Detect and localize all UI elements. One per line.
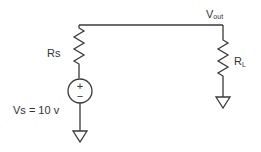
load-resistor-label: RL	[234, 55, 246, 68]
load-resistor-symbol	[218, 25, 228, 97]
ground-icon-right	[216, 97, 230, 108]
circuit-diagram: Rs + − Vs = 10 v RL Vout	[0, 0, 261, 152]
vout-label: Vout	[206, 8, 223, 20]
ground-icon-left	[73, 131, 87, 142]
minus-sign: −	[77, 90, 83, 102]
voltage-source-label: Vs = 10 v	[13, 104, 60, 116]
voltage-source-symbol: + −	[68, 79, 92, 103]
source-resistor-label: Rs	[47, 47, 61, 59]
source-resistor-symbol	[74, 25, 84, 78]
